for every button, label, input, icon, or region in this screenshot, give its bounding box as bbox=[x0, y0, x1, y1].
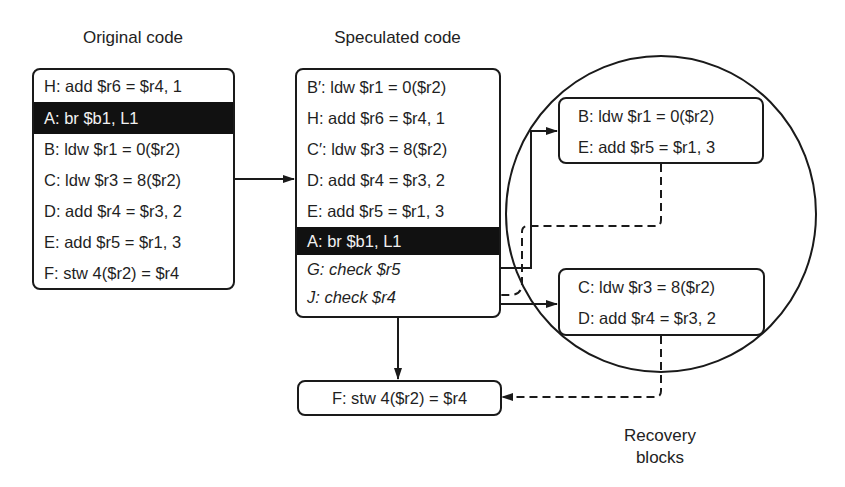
recovery-block-2: C: ldw $r3 = 8($r2) D: add $r4 = $r3, 2 bbox=[558, 268, 765, 336]
original-code-block: H: add $r6 = $r4, 1 A: br $b1, L1 B: ldw… bbox=[32, 68, 235, 290]
join-block: F: stw 4($r2) = $r4 bbox=[297, 380, 502, 416]
code-line: C′: ldw $r3 = 8($r2) bbox=[297, 134, 499, 165]
code-line: C: ldw $r3 = 8($r2) bbox=[34, 165, 233, 196]
recovery-block-1: B: ldw $r1 = 0($r2) E: add $r5 = $r1, 3 bbox=[558, 97, 764, 164]
code-line: H: add $r6 = $r4, 1 bbox=[34, 71, 233, 102]
original-code-title: Original code bbox=[32, 28, 234, 48]
code-line: C: ldw $r3 = 8($r2) bbox=[560, 272, 763, 303]
code-line: E: add $r5 = $r1, 3 bbox=[560, 132, 762, 163]
code-line: B: ldw $r1 = 0($r2) bbox=[34, 134, 233, 165]
code-line: B′: ldw $r1 = 0($r2) bbox=[297, 72, 499, 103]
code-line: H: add $r6 = $r4, 1 bbox=[297, 103, 499, 134]
recovery-label-line-2: blocks bbox=[600, 447, 720, 469]
speculated-code-title: Speculated code bbox=[295, 28, 500, 48]
code-line: D: add $r4 = $r3, 2 bbox=[297, 165, 499, 196]
code-line: F: stw 4($r2) = $r4 bbox=[34, 258, 233, 289]
recovery-label-line-1: Recovery bbox=[600, 425, 720, 447]
branch-line-highlighted: A: br $b1, L1 bbox=[34, 102, 233, 134]
code-line: D: add $r4 = $r3, 2 bbox=[560, 303, 763, 334]
code-line: F: stw 4($r2) = $r4 bbox=[299, 382, 500, 414]
recovery-blocks-label: Recovery blocks bbox=[600, 425, 720, 469]
check-r4-line: J: check $r4 bbox=[297, 283, 499, 311]
arrow-recovery-2-to-join bbox=[502, 336, 661, 397]
code-line: B: ldw $r1 = 0($r2) bbox=[560, 101, 762, 132]
branch-line-highlighted: A: br $b1, L1 bbox=[297, 227, 499, 255]
code-line: E: add $r5 = $r1, 3 bbox=[34, 227, 233, 258]
check-r5-line: G: check $r5 bbox=[297, 255, 499, 283]
speculated-code-block: B′: ldw $r1 = 0($r2) H: add $r6 = $r4, 1… bbox=[295, 68, 501, 318]
code-line: E: add $r5 = $r1, 3 bbox=[297, 196, 499, 227]
code-line: D: add $r4 = $r3, 2 bbox=[34, 196, 233, 227]
